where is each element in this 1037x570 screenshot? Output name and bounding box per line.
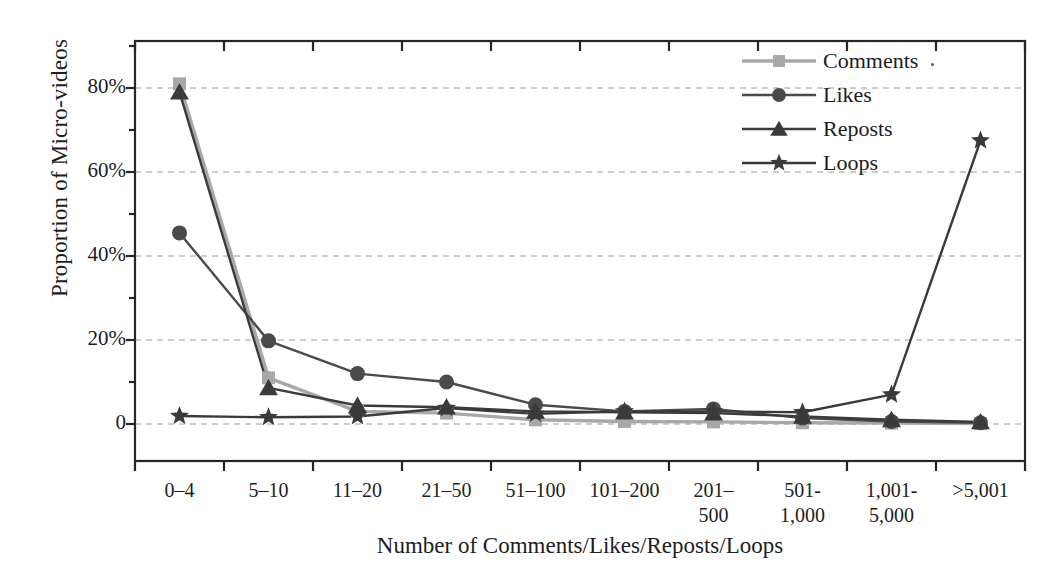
data-point-star xyxy=(882,385,901,403)
legend-label: Likes xyxy=(823,82,872,108)
x-tick-label-line: 501- xyxy=(758,478,847,503)
legend-symbol-square-icon xyxy=(742,50,816,72)
x-tick-label: 11–20 xyxy=(313,478,402,538)
x-tick-label-line: 21–50 xyxy=(402,478,491,503)
chart-legend: CommentsLikesRepostsLoops xyxy=(742,44,982,180)
legend-key-reposts xyxy=(742,118,816,140)
legend-key-loops xyxy=(742,152,816,174)
x-tick-label-line: >5,001 xyxy=(936,478,1025,503)
chart-figure: Proportion of Micro-videos Number of Com… xyxy=(0,0,1037,570)
x-tick-label: 1,001-5,000 xyxy=(847,478,936,538)
data-point-star xyxy=(770,154,788,171)
legend-item-likes[interactable]: Likes xyxy=(742,78,982,112)
series-line-loops xyxy=(180,141,981,418)
x-tick-label-line: 201– xyxy=(669,478,758,503)
legend-item-loops[interactable]: Loops xyxy=(742,146,982,180)
x-tick-label-line: 0–4 xyxy=(135,478,224,503)
legend-label: Comments xyxy=(823,48,918,74)
data-point-circle xyxy=(350,366,365,381)
x-tick-label-line: 1,001- xyxy=(847,478,936,503)
x-tick-label-line: 5,000 xyxy=(847,503,936,528)
x-tick-label-line: 1,000 xyxy=(758,503,847,528)
legend-symbol-star-icon xyxy=(742,152,816,174)
data-point-triangle xyxy=(170,83,189,99)
x-tick-label-line: 11–20 xyxy=(313,478,402,503)
x-tick-label: 201–500 xyxy=(669,478,758,538)
data-point-circle xyxy=(172,225,187,240)
legend-symbol-circle-icon xyxy=(742,84,816,106)
y-tick-label: 20% xyxy=(88,326,127,351)
x-tick-label-line: 101–200 xyxy=(580,478,669,503)
data-point-circle xyxy=(439,375,454,390)
y-tick-label: 40% xyxy=(88,242,127,267)
stray-dot-artifact xyxy=(931,63,934,66)
legend-item-reposts[interactable]: Reposts xyxy=(742,112,982,146)
x-tick-label: 501-1,000 xyxy=(758,478,847,538)
y-tick-label: 60% xyxy=(88,158,127,183)
y-tick-label: 80% xyxy=(88,74,127,99)
x-tick-label: 51–100 xyxy=(491,478,580,538)
data-point-circle xyxy=(261,333,276,348)
legend-key-likes xyxy=(742,84,816,106)
legend-label: Reposts xyxy=(823,116,893,142)
data-point-circle xyxy=(772,88,786,102)
x-tick-label: 21–50 xyxy=(402,478,491,538)
x-tick-label-line: 5–10 xyxy=(224,478,313,503)
data-point-star xyxy=(259,407,278,425)
legend-symbol-triangle-icon xyxy=(742,118,816,140)
data-point-star xyxy=(170,406,189,424)
x-tick-label: 101–200 xyxy=(580,478,669,538)
data-point-square xyxy=(773,55,785,67)
x-tick-label-line: 500 xyxy=(669,503,758,528)
legend-label: Loops xyxy=(823,150,878,176)
x-tick-label-line: 51–100 xyxy=(491,478,580,503)
legend-item-comments[interactable]: Comments xyxy=(742,44,982,78)
x-tick-label: 0–4 xyxy=(135,478,224,538)
y-tick-label: 0 xyxy=(116,410,127,435)
legend-key-comments xyxy=(742,50,816,72)
x-tick-label: 5–10 xyxy=(224,478,313,538)
x-tick-label: >5,001 xyxy=(936,478,1025,538)
